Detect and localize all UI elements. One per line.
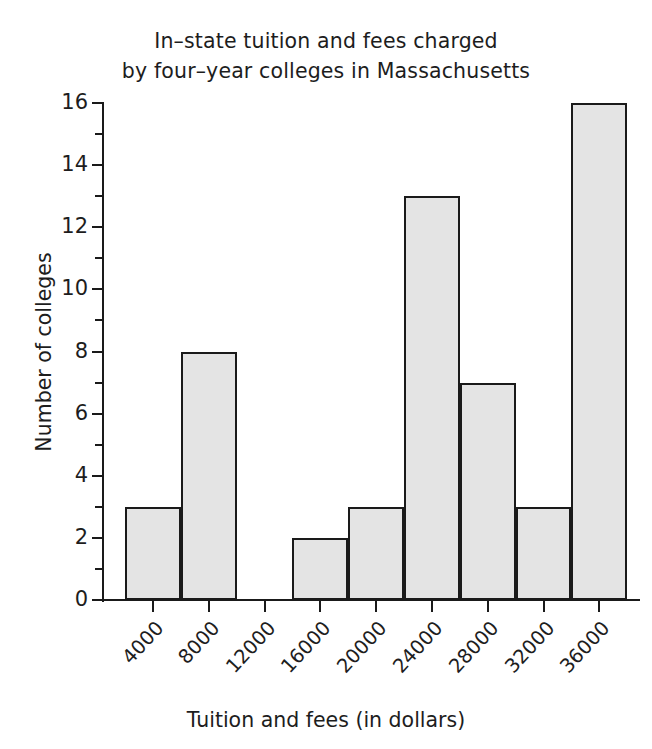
y-axis-title: Number of colleges [32, 222, 56, 482]
bar [125, 507, 181, 600]
y-axis-tick [92, 164, 103, 166]
bar [571, 103, 627, 600]
y-axis-minor-tick [95, 568, 103, 570]
x-axis-tick [487, 600, 489, 612]
x-axis-tick [431, 600, 433, 612]
y-axis-tick [92, 102, 103, 104]
bar [516, 507, 572, 600]
x-axis-tick [598, 600, 600, 612]
y-axis-minor-tick [95, 382, 103, 384]
y-axis-tick-label: 2 [48, 527, 88, 548]
x-axis-tick [543, 600, 545, 612]
x-axis-tick [319, 600, 321, 612]
bar [181, 352, 237, 601]
y-axis-tick-label: 16 [48, 92, 88, 113]
x-axis-tick [264, 600, 266, 612]
y-axis-tick [92, 537, 103, 539]
y-axis-tick [92, 351, 103, 353]
y-axis-minor-tick [95, 195, 103, 197]
y-axis-minor-tick [95, 444, 103, 446]
y-axis-tick [92, 475, 103, 477]
y-axis-tick-label: 0 [48, 589, 88, 610]
y-axis-minor-tick [95, 257, 103, 259]
bar [292, 538, 348, 600]
x-axis-title: Tuition and fees (in dollars) [0, 708, 652, 732]
bar [460, 383, 516, 600]
y-axis-minor-tick [95, 319, 103, 321]
x-axis-tick [375, 600, 377, 612]
y-axis-tick [92, 413, 103, 415]
y-axis-minor-tick [95, 133, 103, 135]
chart-plot-area: 0246810121416 40008000120001600020000240… [0, 0, 652, 749]
y-axis-tick [92, 288, 103, 290]
y-axis-minor-tick [95, 506, 103, 508]
y-axis-tick [92, 226, 103, 228]
y-axis-tick-label: 14 [48, 154, 88, 175]
x-axis-tick [152, 600, 154, 612]
bar [348, 507, 404, 600]
bar [404, 196, 460, 600]
y-axis-tick [92, 599, 103, 601]
x-axis-tick [208, 600, 210, 612]
